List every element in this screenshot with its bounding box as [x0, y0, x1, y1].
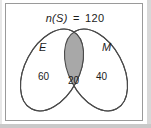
universe-notation: n(S): [46, 12, 68, 24]
set-label-m: M: [102, 41, 111, 53]
universe-cardinality-label: n(S) = 120: [5, 12, 145, 24]
scan-edge-shadow-right: [147, 0, 151, 128]
scan-edge-shadow-left: [0, 0, 2, 128]
count-e-only: 60: [38, 71, 49, 82]
universe-total: 120: [85, 12, 104, 24]
venn-diagram-figure: n(S) = 120 E M 60 20 40: [0, 0, 151, 128]
set-label-e: E: [39, 41, 46, 53]
count-m-only: 40: [96, 71, 107, 82]
count-intersection: 20: [68, 75, 79, 86]
scan-edge-shadow-bottom: [0, 124, 151, 128]
equals-sign: =: [71, 12, 82, 24]
